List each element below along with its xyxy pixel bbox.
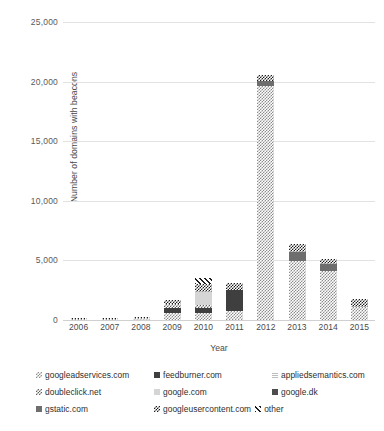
y-axis-tick-10000: 10,000 (0, 196, 58, 206)
stacked-bar-2011[interactable] (226, 283, 243, 320)
segment-googleadservices-2011 (226, 311, 243, 320)
legend-label: google.dk (281, 387, 318, 397)
segment-google-com-2010 (195, 292, 212, 305)
legend-swatch-icon-doubleclick (36, 389, 42, 395)
segment-googleadservices-2007 (101, 319, 118, 320)
segment-googleadservices-2006 (70, 319, 87, 320)
legend-label: appliedsemantics.com (281, 370, 365, 380)
stacked-bar-2012[interactable] (257, 75, 274, 320)
x-axis-tick-2014: 2014 (313, 322, 344, 332)
x-axis-tick-2013: 2013 (281, 322, 312, 332)
legend-label: other (264, 404, 283, 414)
x-axis-tick-2006: 2006 (63, 322, 94, 332)
segment-googleusercontent-2011 (226, 283, 243, 290)
legend-label: googleadservices.com (45, 370, 129, 380)
x-axis-tick-2010: 2010 (188, 322, 219, 332)
x-axis-ticks: 2006 2007 2008 2009 2010 2011 2012 2013 … (63, 322, 375, 332)
segment-googleusercontent-2010 (195, 284, 212, 292)
x-axis-title: Year (63, 343, 375, 353)
legend-label: feedburner.com (163, 370, 222, 380)
legend-item-googleadservices[interactable]: googleadservices.com (36, 370, 154, 380)
y-axis-tick-0: 0 (0, 315, 58, 325)
x-axis-tick-2011: 2011 (219, 322, 250, 332)
bar-slot-2015 (344, 22, 375, 320)
segment-gstatic-2013 (289, 252, 306, 261)
legend-item-feedburner[interactable]: feedburner.com (154, 370, 272, 380)
legend-item-google-com[interactable]: google.com (154, 387, 272, 397)
bar-slot-2011 (219, 22, 250, 320)
segment-googleadservices-2012 (257, 86, 274, 320)
legend-label: doubleclick.net (45, 387, 101, 397)
segment-googleusercontent-2013 (289, 244, 306, 251)
legend-swatch-icon-feedburner (154, 372, 160, 378)
legend-label: gstatic.com (45, 404, 88, 414)
bar-slot-2010 (188, 22, 219, 320)
segment-googleadservices-2014 (320, 271, 337, 320)
stacked-bar-2014[interactable] (320, 259, 337, 320)
legend-item-gstatic[interactable]: gstatic.com (36, 404, 154, 414)
bar-slot-2009 (157, 22, 188, 320)
y-axis-tick-25000: 25,000 (0, 17, 58, 27)
stacked-bar-2010[interactable] (195, 278, 212, 320)
legend-row: doubleclick.net google.com google.dk (36, 383, 366, 400)
segment-googleadservices-2008 (133, 318, 150, 320)
legend-label: googleusercontent.com (163, 404, 251, 414)
stacked-bar-2008[interactable] (133, 317, 150, 320)
bar-group (63, 22, 375, 320)
x-axis-tick-2009: 2009 (157, 322, 188, 332)
legend-swatch-icon-googleadservices (36, 372, 42, 378)
bar-slot-2006 (63, 22, 94, 320)
bar-slot-2014 (313, 22, 344, 320)
y-axis-tick-20000: 20,000 (0, 77, 58, 87)
x-axis-tick-2007: 2007 (94, 322, 125, 332)
x-axis-tick-2015: 2015 (344, 322, 375, 332)
segment-googleadservices-2009 (164, 313, 181, 320)
segment-feedburner-2011 (226, 290, 243, 311)
legend-item-appliedsemantics[interactable]: appliedsemantics.com (272, 370, 365, 380)
legend-swatch-icon-google-dk (272, 389, 278, 395)
bar-slot-2013 (281, 22, 312, 320)
segment-gstatic-2014 (320, 264, 337, 271)
legend-swatch-icon-googleusercontent (154, 406, 160, 412)
gridline-0 (63, 320, 375, 321)
segment-googleadservices-2013 (289, 261, 306, 320)
legend-label: google.com (163, 387, 207, 397)
x-axis-tick-2008: 2008 (125, 322, 156, 332)
stacked-bar-2007[interactable] (101, 318, 118, 320)
stacked-bar-2013[interactable] (289, 244, 306, 320)
bar-slot-2008 (125, 22, 156, 320)
bar-slot-2012 (250, 22, 281, 320)
stacked-bar-2009[interactable] (164, 300, 181, 320)
segment-googleadservices-2010 (195, 313, 212, 320)
chart-legend: googleadservices.com feedburner.com appl… (36, 366, 366, 417)
stacked-bar-2006[interactable] (70, 318, 87, 320)
legend-item-googleusercontent[interactable]: googleusercontent.com (154, 404, 251, 414)
x-axis-tick-2012: 2012 (250, 322, 281, 332)
legend-row: googleadservices.com feedburner.com appl… (36, 366, 366, 383)
legend-swatch-icon-gstatic (36, 406, 42, 412)
legend-item-other[interactable]: other (255, 404, 283, 414)
segment-googleadservices-2015 (351, 307, 368, 320)
segment-googleusercontent-2015 (351, 299, 368, 307)
chart-figure: Number of domains with beacons 25,000 20… (0, 0, 384, 431)
legend-swatch-icon-google-com (154, 389, 160, 395)
legend-swatch-icon-other (255, 406, 261, 412)
legend-swatch-icon-appliedsemantics (272, 372, 278, 378)
stacked-bar-2015[interactable] (351, 299, 368, 320)
y-axis-tick-5000: 5,000 (0, 255, 58, 265)
legend-item-doubleclick[interactable]: doubleclick.net (36, 387, 154, 397)
y-axis-tick-15000: 15,000 (0, 136, 58, 146)
bar-slot-2007 (94, 22, 125, 320)
legend-row: gstatic.com googleusercontent.com other (36, 400, 366, 417)
legend-item-google-dk[interactable]: google.dk (272, 387, 318, 397)
